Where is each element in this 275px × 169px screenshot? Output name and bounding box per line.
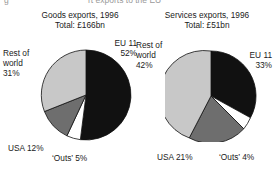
label-services-eu11-line2: 33%: [226, 60, 272, 70]
pie-chart-figure: g rt exports to the EU Goods exports, 19…: [0, 0, 275, 169]
label-services-outs: ‘Outs’ 4%: [219, 152, 275, 162]
chart-title-goods-line2: Total: £166bn: [20, 20, 140, 30]
chart-title-services: Services exports, 1996 Total: £51bn: [145, 10, 269, 30]
label-goods-rest-of-world-line1: Rest of: [3, 48, 45, 58]
clipped-caption-right: rt exports to the EU: [88, 0, 161, 5]
label-goods-usa: USA 12%: [8, 143, 58, 153]
label-goods-outs-line1: ‘Outs’ 5%: [52, 153, 108, 163]
label-goods-rest-of-world: Rest of world 31%: [3, 48, 45, 79]
slice-goods-eu11: [80, 50, 131, 140]
label-services-eu11-line1: EU 11: [226, 50, 272, 60]
label-services-outs-line1: ‘Outs’ 4%: [219, 152, 275, 162]
chart-title-goods-line1: Goods exports, 1996: [20, 10, 140, 20]
label-goods-usa-line1: USA 12%: [8, 143, 58, 153]
label-goods-rest-of-world-line3: 31%: [3, 68, 45, 78]
label-services-rest-of-world-line1: Rest of: [136, 40, 178, 50]
label-services-usa: USA 21%: [157, 152, 209, 162]
label-goods-outs: ‘Outs’ 5%: [52, 153, 108, 163]
label-services-eu11: EU 11 33%: [226, 50, 272, 70]
pie-goods: [40, 49, 132, 141]
label-services-rest-of-world: Rest of world 42%: [136, 40, 178, 71]
label-goods-eu11-line1: EU 11: [93, 38, 137, 48]
clipped-caption-left: g: [4, 0, 9, 5]
label-goods-rest-of-world-line2: world: [3, 58, 45, 68]
label-services-rest-of-world-line3: 42%: [136, 60, 178, 70]
label-services-usa-line1: USA 21%: [157, 152, 209, 162]
chart-title-services-line1: Services exports, 1996: [145, 10, 269, 20]
label-services-rest-of-world-line2: world: [136, 50, 178, 60]
label-goods-eu11: EU 11 52%: [93, 38, 137, 58]
clipped-caption-strip: g rt exports to the EU: [0, 0, 275, 6]
chart-title-goods: Goods exports, 1996 Total: £166bn: [20, 10, 140, 30]
chart-title-services-line2: Total: £51bn: [145, 20, 269, 30]
label-goods-eu11-line2: 52%: [93, 48, 137, 58]
pie-goods-svg: [40, 49, 132, 141]
